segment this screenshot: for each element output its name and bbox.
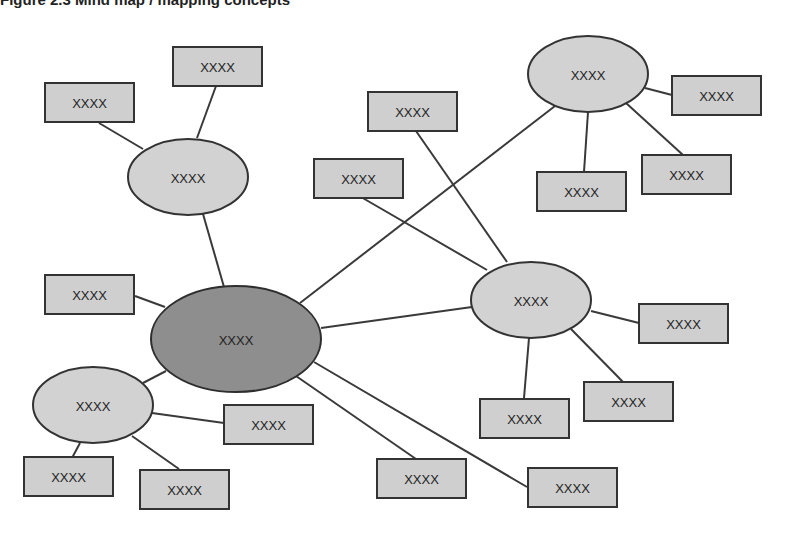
- box-node-top-left-b[interactable]: XXXX: [173, 47, 262, 86]
- satellite-node-top-right[interactable]: XXXX: [528, 36, 648, 112]
- edge-sat-mr-box-bottom: [524, 338, 529, 398]
- box-label: XXXX: [341, 172, 376, 187]
- box-label: XXXX: [200, 60, 235, 75]
- satellite-node-bottom-left[interactable]: XXXX: [33, 367, 153, 443]
- satellite-node-top-left[interactable]: XXXX: [128, 139, 248, 215]
- box-label: XXXX: [699, 89, 734, 104]
- box-node-top-right-lower-right[interactable]: XXXX: [642, 155, 731, 194]
- box-label: XXXX: [72, 288, 107, 303]
- hub-node[interactable]: XXXX: [151, 286, 321, 392]
- box-node-hub-left[interactable]: XXXX: [45, 275, 134, 314]
- edge-sat-tr-box-right: [645, 88, 672, 95]
- box-label: XXXX: [564, 185, 599, 200]
- edge-sat-mr-box-lower-right: [571, 329, 623, 382]
- box-node-hub-bottom-mid[interactable]: XXXX: [377, 459, 466, 498]
- box-node-mid-right-lower-right[interactable]: XXXX: [584, 382, 673, 421]
- satellite-label: XXXX: [171, 171, 206, 186]
- edge-sat-mr-box-right: [591, 311, 639, 323]
- box-node-bottom-left-right[interactable]: XXXX: [224, 405, 313, 444]
- box-label: XXXX: [251, 418, 286, 433]
- satellite-label: XXXX: [514, 294, 549, 309]
- edge-hub-sat-bl: [143, 371, 166, 383]
- satellite-label: XXXX: [571, 68, 606, 83]
- satellite-label: XXXX: [76, 399, 111, 414]
- box-label: XXXX: [404, 472, 439, 487]
- box-node-top-left-a[interactable]: XXXX: [45, 83, 134, 122]
- edge-sat-tl-box-a: [99, 123, 143, 149]
- hub-label: XXXX: [219, 333, 254, 348]
- box-node-top-right-bottom[interactable]: XXXX: [537, 172, 626, 211]
- edge-hub-sat-tl: [203, 214, 224, 287]
- edge-sat-bl-box-right: [152, 413, 224, 423]
- box-label: XXXX: [72, 96, 107, 111]
- box-label: XXXX: [669, 168, 704, 183]
- edge-sat-tr-box-bottom: [584, 112, 588, 172]
- box-node-mid-lower[interactable]: XXXX: [314, 159, 403, 198]
- box-node-mid-upper[interactable]: XXXX: [368, 92, 457, 131]
- edge-box-mid-upper-sat-mr: [416, 131, 507, 262]
- box-label: XXXX: [167, 483, 202, 498]
- box-label: XXXX: [395, 105, 430, 120]
- box-node-bottom-left-bottom-right[interactable]: XXXX: [140, 470, 229, 509]
- edge-hub-sat-mr: [321, 307, 472, 328]
- box-label: XXXX: [666, 317, 701, 332]
- box-node-top-right-right[interactable]: XXXX: [672, 76, 761, 115]
- box-node-mid-right-bottom[interactable]: XXXX: [480, 399, 569, 438]
- edge-sat-bl-box-bottom-right: [132, 436, 179, 469]
- box-label: XXXX: [51, 470, 86, 485]
- box-label: XXXX: [555, 481, 590, 496]
- box-label: XXXX: [507, 412, 542, 427]
- edge-hub-box-left: [135, 296, 165, 307]
- box-node-hub-bottom-right[interactable]: XXXX: [528, 468, 617, 507]
- edge-sat-bl-box-bottom-left: [72, 443, 80, 458]
- box-node-mid-right-right[interactable]: XXXX: [639, 304, 728, 343]
- satellite-node-mid-right[interactable]: XXXX: [471, 262, 591, 338]
- box-label: XXXX: [611, 395, 646, 410]
- edge-sat-tl-box-b: [197, 86, 216, 138]
- mind-map-diagram: XXXX XXXX XXXX XXXX XXXX XXXX XXXX XXXX …: [0, 0, 786, 540]
- box-node-bottom-left-bottom-left[interactable]: XXXX: [24, 457, 113, 496]
